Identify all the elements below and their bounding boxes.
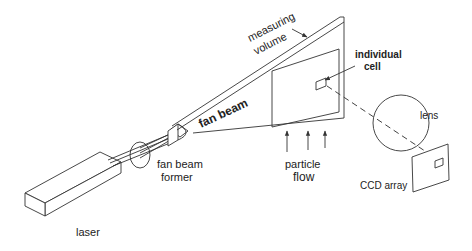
measuring-volume-pointer (292, 29, 307, 37)
label-individual: individual (355, 49, 402, 60)
imaging-lens (373, 95, 429, 151)
individual-cell (316, 78, 326, 90)
label-fan-beam-former-2: former (161, 171, 193, 183)
label-cell: cell (364, 61, 381, 72)
label-ccd-array: CCD array (360, 180, 407, 191)
label-laser: laser (76, 226, 100, 238)
individual-cell-pointer (325, 66, 355, 80)
measurement-plane (272, 49, 339, 127)
label-lens: lens (420, 110, 438, 121)
ccd-array (412, 144, 449, 192)
label-fan-beam-former-1: fan beam (157, 158, 203, 170)
converging-beam-lines (140, 133, 172, 158)
label-particle: particle (285, 158, 320, 170)
fan-beam-former-block (168, 124, 188, 146)
laser-body (25, 152, 121, 216)
label-flow: flow (293, 170, 315, 184)
optical-path-dashed (327, 86, 440, 161)
label-fan-beam: fan beam (196, 96, 250, 131)
laser-fan-beam-diagram: measuring volume fan beam individual cel… (0, 0, 472, 251)
particle-flow-arrows (287, 131, 325, 152)
